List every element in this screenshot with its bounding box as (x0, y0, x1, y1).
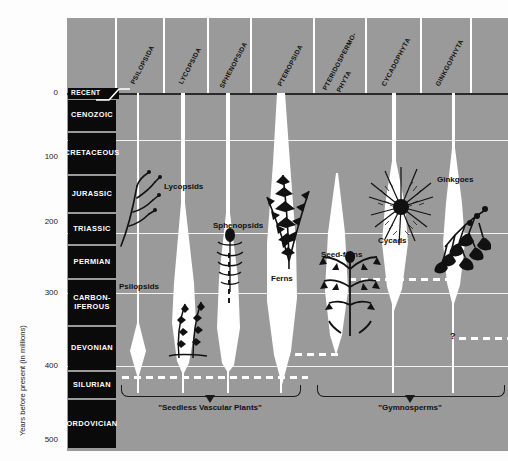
header-cell-psilopsida: PSILOPSIDA (115, 18, 163, 93)
column-header-band: PSILOPSIDA LYCOPSIDA SPHENOPSIDA PTEROPS… (67, 18, 508, 93)
y-tick-arrow-100 (61, 153, 67, 159)
y-tick-100: 100 (34, 152, 58, 161)
era-block-ordovician: ORDOVICIAN (68, 400, 116, 448)
header-divider (115, 18, 117, 93)
header-cell-pteridospermophyta: PTERIDOSPERMO- PHYTA (313, 18, 365, 93)
plant-label-sphenopsids: Sphenopsids (213, 221, 263, 230)
bracket-seedless-pointer (205, 395, 215, 403)
question-mark-annotation: ? (450, 331, 456, 341)
y-tick-500: 500 (34, 435, 58, 444)
y-tick-arrow-400 (61, 362, 67, 368)
bracket-label-gymnosperms: "Gymnosperms" (330, 403, 490, 412)
header-divider (365, 18, 367, 93)
header-cell-cycadophyta: CYCADOPHYTA (365, 18, 420, 93)
era-block-silurian: SILURIAN (68, 372, 116, 398)
chart-area: PSILOPSIDA LYCOPSIDA SPHENOPSIDA PTEROPS… (67, 18, 508, 451)
y-tick-arrow-300 (61, 289, 67, 295)
plant-label-seed-ferns: Seed-ferns (321, 250, 362, 259)
header-divider (250, 18, 252, 93)
header-cell-pteropsida: PTEROPSIDA (250, 18, 313, 93)
header-label-lycopsida: LYCOPSIDA (177, 46, 202, 85)
y-axis-label: Years before present (in millions) (18, 325, 27, 436)
header-divider (207, 18, 209, 93)
plant-label-lycopsids: Lycopsids (164, 182, 203, 191)
y-tick-400: 400 (34, 361, 58, 370)
ancestry-link-question (459, 337, 508, 340)
plant-art-sphenopsids (213, 228, 247, 296)
plant-art-psilopsids (115, 168, 169, 248)
era-block-carboniferous: CARBON- IFEROUS (68, 280, 116, 325)
header-cell-ginkgophyta: GINKGOPHYTA (420, 18, 470, 93)
header-cell-sphenopsida: SPHENOPSIDA (207, 18, 250, 93)
plant-art-lycopsids (163, 288, 217, 360)
era-block-cenozoic: CENOZOIC (68, 100, 116, 131)
bracket-gymnosperms-pointer (405, 395, 415, 403)
header-cell-lycopsida: LYCOPSIDA (163, 18, 207, 93)
header-label-cycadophyta: CYCADOPHYTA (380, 37, 411, 88)
header-label-pteropsida: PTEROPSIDA (276, 43, 304, 87)
header-cell-trailing (470, 18, 508, 93)
header-divider (163, 18, 165, 93)
y-tick-300: 300 (34, 288, 58, 297)
plant-art-ferns (259, 161, 319, 271)
header-divider (420, 18, 422, 93)
header-label-psilopsida: PSILOPSIDA (129, 44, 155, 85)
y-tick-arrow-200 (61, 218, 67, 224)
plot-area: ? (67, 93, 508, 451)
y-tick-200: 200 (34, 217, 58, 226)
plant-label-ferns: Ferns (271, 274, 293, 283)
era-block-jurassic: JURASSIC (68, 176, 116, 212)
recent-leader-line (95, 86, 131, 102)
plant-art-ginkgoes (425, 203, 491, 283)
header-divider (470, 18, 472, 93)
plant-label-ginkgoes: Ginkgoes (437, 175, 473, 184)
bracket-label-seedless: "Seedless Vascular Plants" (130, 403, 290, 412)
era-block-devonian: DEVONIAN (68, 327, 116, 370)
era-label-iferous: IFEROUS (74, 303, 110, 312)
chart-root: PSILOPSIDA LYCOPSIDA SPHENOPSIDA PTEROPS… (0, 0, 508, 461)
y-tick-arrow-0 (61, 89, 67, 95)
ancestry-link-seedless-base (122, 376, 308, 379)
y-tick-0: 0 (34, 88, 58, 97)
ancestry-link-fern-to-seedfern (283, 353, 341, 356)
header-divider (313, 18, 315, 93)
plant-label-cycads: Cycads (378, 236, 406, 245)
era-block-permian: PERMIAN (68, 246, 116, 278)
header-label-sphenopsida: SPHENOPSIDA (218, 41, 248, 90)
era-block-cretaceous: CRETACEOUS (68, 133, 116, 174)
header-label-ginkgophyta: GINKGOPHYTA (434, 38, 465, 87)
era-block-triassic: TRIASSIC (68, 214, 116, 244)
plant-label-psilopsids: Psilopsids (119, 282, 159, 291)
